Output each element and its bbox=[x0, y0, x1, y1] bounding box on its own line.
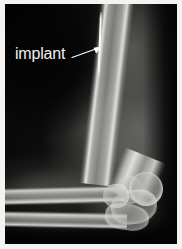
figure-edge-bottom bbox=[0, 244, 182, 249]
figure-edge-left bbox=[0, 0, 5, 249]
figure-edge-right bbox=[177, 0, 182, 249]
elbow-radiograph-figure: implant bbox=[0, 0, 182, 249]
figure-edge-top bbox=[0, 0, 182, 4]
radiograph-image bbox=[5, 4, 177, 244]
